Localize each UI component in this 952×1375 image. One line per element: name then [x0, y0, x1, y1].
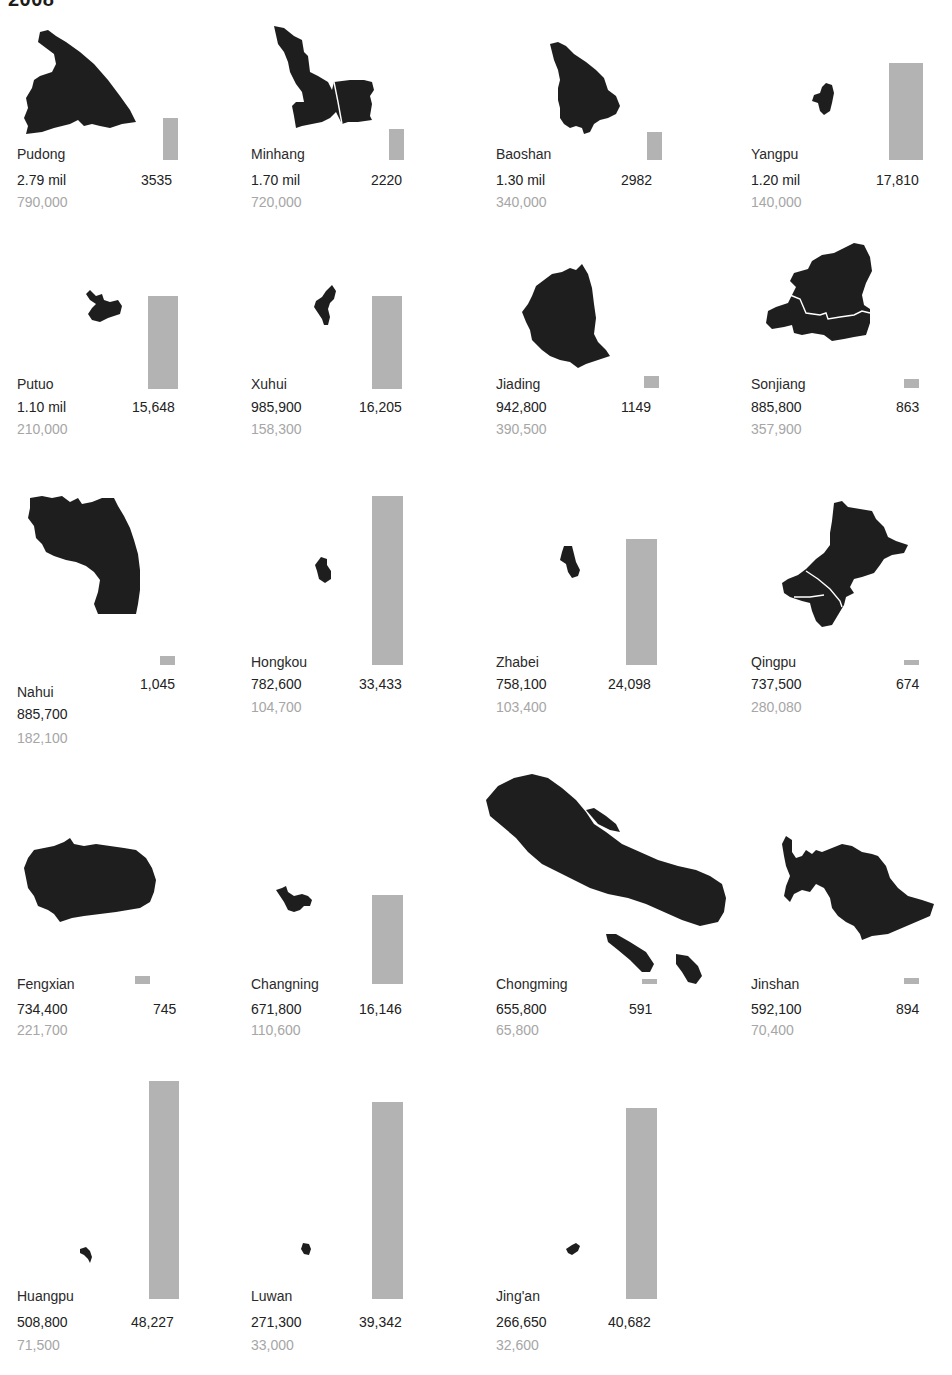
yangpu-map-shape	[812, 83, 836, 115]
district-name: Jiading	[496, 376, 540, 392]
luwan-density-bar	[372, 1102, 403, 1299]
district-name: Qingpu	[751, 654, 796, 670]
district-population: 592,100	[751, 1001, 802, 1017]
changning-map-shape	[276, 886, 314, 914]
hongkou-map-shape	[315, 557, 333, 583]
district-population: 885,800	[751, 399, 802, 415]
district-density: 40,682	[608, 1314, 651, 1330]
district-name: Nahui	[17, 684, 54, 700]
nahui-density-bar	[160, 656, 175, 665]
district-secondary: 70,400	[751, 1022, 794, 1038]
district-population: 758,100	[496, 676, 547, 692]
district-population: 1.30 mil	[496, 172, 545, 188]
pudong-density-bar	[163, 118, 178, 160]
district-population: 942,800	[496, 399, 547, 415]
district-name: Jinshan	[751, 976, 799, 992]
jingan-density-bar	[626, 1108, 657, 1299]
district-name: Chongming	[496, 976, 568, 992]
district-secondary: 390,500	[496, 421, 547, 437]
jinshan-density-bar	[904, 978, 919, 984]
district-density: 2982	[621, 172, 652, 188]
district-secondary: 280,080	[751, 699, 802, 715]
district-name: Baoshan	[496, 146, 551, 162]
district-secondary: 33,000	[251, 1337, 294, 1353]
district-name: Luwan	[251, 1288, 292, 1304]
putuo-density-bar	[148, 296, 178, 389]
district-name: Zhabei	[496, 654, 539, 670]
district-population: 271,300	[251, 1314, 302, 1330]
district-name: Putuo	[17, 376, 54, 392]
district-population: 1.70 mil	[251, 172, 300, 188]
district-secondary: 32,600	[496, 1337, 539, 1353]
baoshan-map-shape	[548, 42, 624, 136]
hongkou-density-bar	[372, 496, 403, 665]
district-name: Changning	[251, 976, 319, 992]
minhang-map-shape	[272, 26, 380, 132]
district-density: 2220	[371, 172, 402, 188]
district-population: 1.20 mil	[751, 172, 800, 188]
district-density: 17,810	[876, 172, 919, 188]
district-name: Fengxian	[17, 976, 75, 992]
qingpu-density-bar	[904, 660, 919, 665]
xuhui-density-bar	[372, 296, 402, 389]
huangpu-density-bar	[149, 1081, 179, 1299]
district-secondary: 71,500	[17, 1337, 60, 1353]
district-density: 745	[153, 1001, 176, 1017]
yangpu-density-bar	[889, 63, 923, 160]
sonjiang-density-bar	[904, 379, 919, 388]
district-name: Pudong	[17, 146, 65, 162]
district-name: Huangpu	[17, 1288, 74, 1304]
district-density: 15,648	[132, 399, 175, 415]
changning-density-bar	[372, 895, 403, 984]
district-secondary: 140,000	[751, 194, 802, 210]
district-secondary: 103,400	[496, 699, 547, 715]
jiading-density-bar	[644, 376, 659, 388]
qingpu-map-shape	[780, 501, 910, 629]
fengxian-map-shape	[24, 838, 158, 922]
district-secondary: 158,300	[251, 421, 302, 437]
district-population: 734,400	[17, 1001, 68, 1017]
district-name: Xuhui	[251, 376, 287, 392]
zhabei-map-shape	[560, 546, 580, 578]
chart-title: 2008	[8, 0, 55, 11]
district-name: Hongkou	[251, 654, 307, 670]
district-population: 508,800	[17, 1314, 68, 1330]
district-secondary: 790,000	[17, 194, 68, 210]
district-secondary: 65,800	[496, 1022, 539, 1038]
district-population: 737,500	[751, 676, 802, 692]
district-density: 591	[629, 1001, 652, 1017]
district-secondary: 210,000	[17, 421, 68, 437]
sonjiang-map-shape	[766, 243, 876, 341]
zhabei-density-bar	[626, 539, 657, 665]
district-density: 674	[896, 676, 919, 692]
district-density: 16,205	[359, 399, 402, 415]
district-secondary: 221,700	[17, 1022, 68, 1038]
chongming-density-bar	[642, 979, 657, 984]
pudong-map-shape	[22, 28, 138, 136]
district-population: 671,800	[251, 1001, 302, 1017]
district-secondary: 104,700	[251, 699, 302, 715]
district-secondary: 340,000	[496, 194, 547, 210]
huangpu-map-shape	[80, 1247, 92, 1263]
district-name: Jing'an	[496, 1288, 540, 1304]
chongming-map-shape	[482, 772, 728, 986]
district-population: 655,800	[496, 1001, 547, 1017]
district-population: 885,700	[17, 706, 68, 722]
jinshan-map-shape	[782, 836, 938, 942]
district-density: 3535	[141, 172, 172, 188]
district-secondary: 720,000	[251, 194, 302, 210]
minhang-density-bar	[389, 129, 404, 160]
district-density: 16,146	[359, 1001, 402, 1017]
district-density: 24,098	[608, 676, 651, 692]
district-density: 1,045	[140, 676, 175, 692]
district-population: 2.79 mil	[17, 172, 66, 188]
district-secondary: 357,900	[751, 421, 802, 437]
district-name: Yangpu	[751, 146, 798, 162]
jiading-map-shape	[522, 264, 612, 368]
district-density: 48,227	[131, 1314, 174, 1330]
district-density: 1149	[621, 399, 651, 415]
fengxian-density-bar	[135, 976, 150, 984]
jingan-map-shape	[566, 1243, 580, 1255]
district-population: 782,600	[251, 676, 302, 692]
nahui-map-shape	[26, 496, 144, 616]
